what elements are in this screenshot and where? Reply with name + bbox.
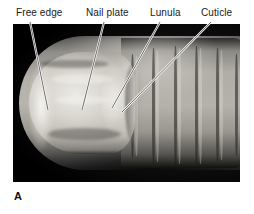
skin-crease <box>235 54 238 156</box>
label-lunula: Lunula <box>150 7 181 18</box>
panel-letter: A <box>14 190 22 202</box>
label-free-edge: Free edge <box>16 7 63 18</box>
photograph-fingertip <box>13 24 240 182</box>
skin-crease-highlight <box>178 48 181 164</box>
skin-crease <box>216 48 219 162</box>
skin-crease-highlight <box>156 50 159 162</box>
label-nail-plate: Nail plate <box>86 7 129 18</box>
skin-crease <box>195 46 198 166</box>
label-cuticle: Cuticle <box>201 7 232 18</box>
skin-crease <box>174 46 177 166</box>
skin-crease-highlight <box>199 48 202 164</box>
figure-panel: Free edge Nail plate Lunula Cuticle <box>0 0 254 214</box>
skin-crease-highlight <box>220 50 223 160</box>
skin-crease <box>152 48 155 164</box>
cuticle-region <box>125 64 143 142</box>
